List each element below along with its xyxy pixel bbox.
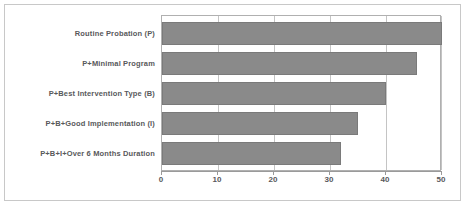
bar-good-implementation[interactable]	[162, 112, 358, 135]
x-tick-label-40: 40	[365, 175, 405, 184]
bar-routine-probation[interactable]	[162, 22, 442, 45]
x-tick-label-30: 30	[309, 175, 349, 184]
bar-best-intervention-type[interactable]	[162, 82, 386, 105]
category-label-routine-probation: Routine Probation (P)	[5, 29, 155, 38]
category-label-good-implementation: P+B+Good Implementation (I)	[5, 119, 155, 128]
plot-area	[161, 15, 441, 171]
x-tick-label-50: 50	[421, 175, 461, 184]
bar-chart: Routine Probation (P) P+Minimal Program …	[0, 0, 465, 205]
x-tick-label-20: 20	[253, 175, 293, 184]
figure-canvas: Routine Probation (P) P+Minimal Program …	[0, 0, 465, 205]
bar-minimal-program[interactable]	[162, 52, 417, 75]
category-label-best-intervention-type: P+Best Intervention Type (B)	[5, 89, 155, 98]
x-tick-label-10: 10	[197, 175, 237, 184]
category-label-over-6-months-duration: P+B+I+Over 6 Months Duration	[5, 149, 155, 158]
bar-over-6-months-duration[interactable]	[162, 142, 341, 165]
category-label-minimal-program: P+Minimal Program	[5, 59, 155, 68]
x-tick-label-0: 0	[141, 175, 181, 184]
x-axis-line	[161, 171, 442, 172]
